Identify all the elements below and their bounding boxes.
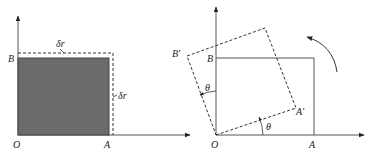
delta-right-pointer [113, 95, 117, 97]
label-o: O [13, 139, 20, 150]
label-theta-bottom: θ [266, 121, 271, 132]
diagram-canvas: δr δr B O A θ θ B B' A' O A [0, 0, 374, 159]
label-a: A [308, 139, 316, 150]
label-delta-top: δr [56, 38, 65, 49]
label-b: B [207, 53, 213, 64]
label-theta-left: θ [205, 82, 210, 93]
right-diagram: θ θ B B' A' O A [172, 7, 364, 150]
shaded-square [18, 58, 109, 135]
label-a: A [103, 139, 111, 150]
rotated-square [187, 28, 296, 135]
label-o: O [211, 139, 218, 150]
label-b: B [8, 53, 14, 64]
delta-top-pointer [60, 49, 64, 53]
left-diagram: δr δr B O A [8, 16, 190, 150]
label-b-prime: B' [172, 48, 181, 59]
label-a-prime: A' [295, 106, 305, 117]
original-square [216, 58, 314, 135]
rotation-arrow-icon [307, 37, 337, 72]
label-delta-right: δr [118, 90, 127, 101]
